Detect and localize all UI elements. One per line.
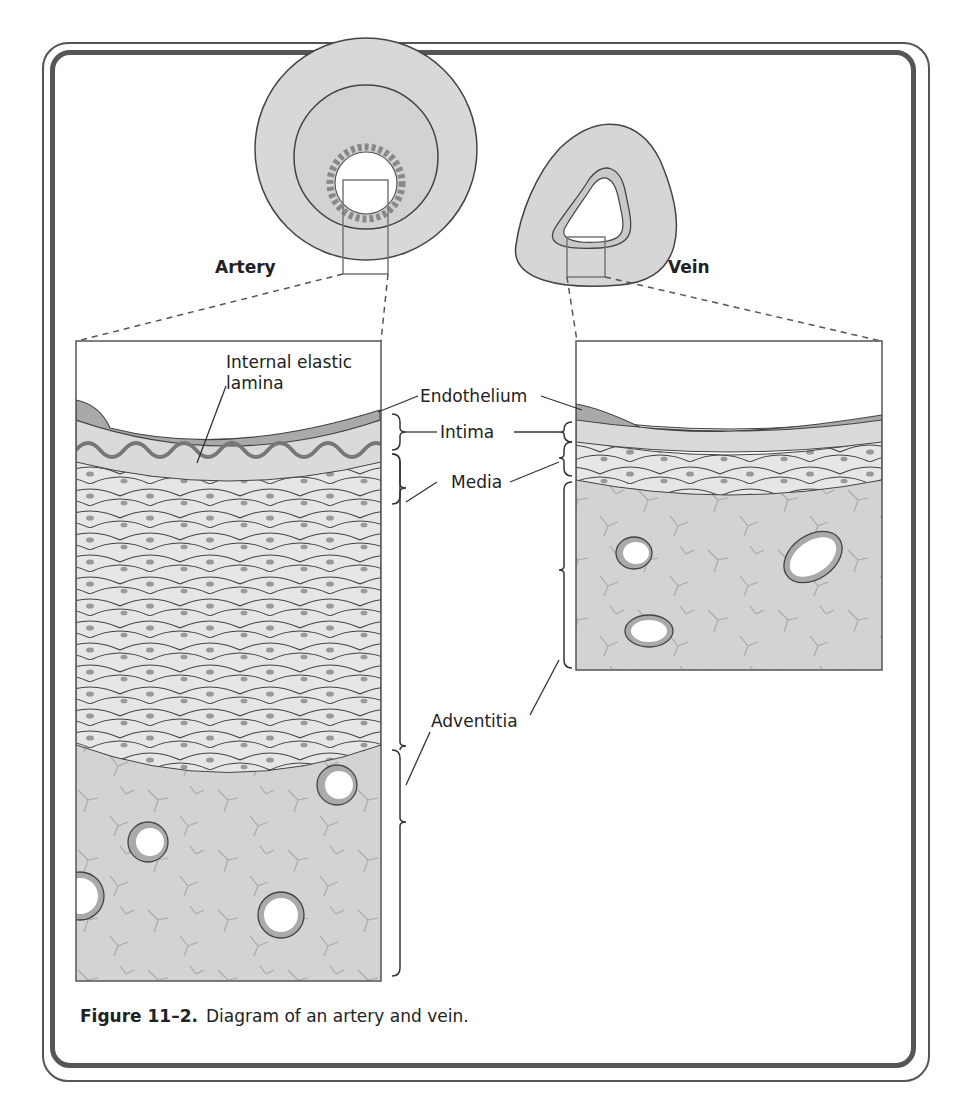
artery-adventitia-brace xyxy=(392,750,406,976)
artery-cross-section xyxy=(255,38,477,274)
layer-braces xyxy=(392,414,572,976)
vein-wall-detail xyxy=(576,341,882,705)
vein-intima-brace xyxy=(559,422,572,442)
artery-intima-brace xyxy=(392,414,406,450)
figure-number: Figure 11–2. xyxy=(80,1006,198,1026)
label-endothelium: Endothelium xyxy=(420,386,527,406)
artery-media-top-brace xyxy=(392,454,406,504)
label-internal-elastic-lamina-2: lamina xyxy=(226,373,284,393)
vein-media-brace xyxy=(559,442,572,476)
figure-caption: Figure 11–2.Diagram of an artery and vei… xyxy=(80,1006,469,1026)
vein-title: Vein xyxy=(668,257,710,277)
label-internal-elastic-lamina-1: Internal elastic xyxy=(226,352,352,372)
artery-wall-detail xyxy=(56,341,388,981)
artery-title: Artery xyxy=(215,257,276,277)
vein-adventitia-brace xyxy=(559,482,572,668)
artery-media-brace xyxy=(392,454,406,750)
artery-vein-diagram: Artery Vein xyxy=(0,0,964,1102)
label-media: Media xyxy=(451,472,502,492)
label-intima: Intima xyxy=(440,422,494,442)
figure-caption-text: Diagram of an artery and vein. xyxy=(206,1006,469,1026)
zoom-connector-lines xyxy=(77,274,881,341)
vein-cross-section xyxy=(516,124,677,286)
label-adventitia: Adventitia xyxy=(431,711,518,731)
